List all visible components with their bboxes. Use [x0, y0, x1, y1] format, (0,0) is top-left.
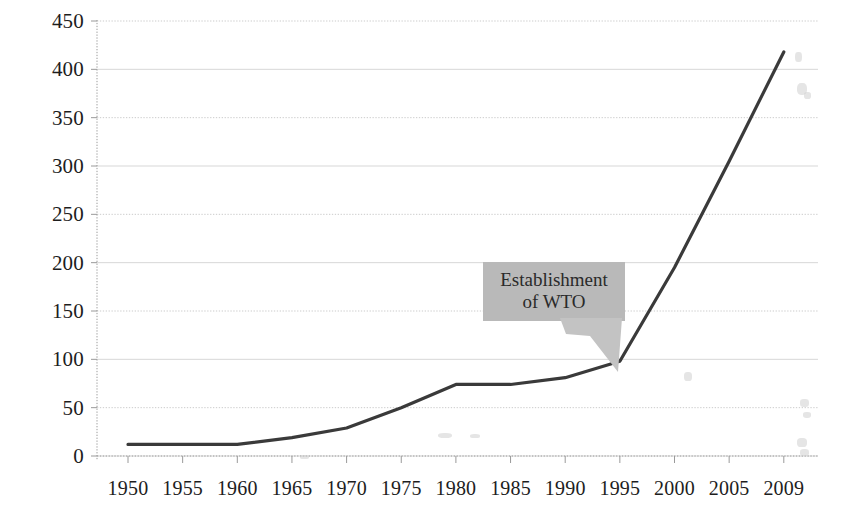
x-axis-tick-label: 1990	[545, 477, 586, 500]
x-axis-tick-label: 1965	[272, 477, 313, 500]
x-axis-tick-label: 1995	[599, 477, 640, 500]
scan-artifact	[684, 372, 692, 381]
x-axis-tick-label: 1975	[381, 477, 422, 500]
scan-artifact	[438, 433, 452, 438]
annotation-establishment-of-wto: Establishment of WTO	[483, 262, 625, 321]
scan-artifact	[800, 399, 809, 407]
x-axis-tick-label: 1985	[490, 477, 531, 500]
x-axis: 1950195519601965197019751980198519901995…	[0, 0, 861, 525]
x-axis-tick-label: 1960	[217, 477, 258, 500]
scan-artifact	[804, 92, 811, 99]
scan-artifact	[803, 412, 811, 418]
x-axis-tick-label: 2009	[763, 477, 804, 500]
annotation-pointer-tail	[560, 318, 650, 374]
annotation-line-1: Establishment	[500, 269, 608, 290]
x-axis-tick-label: 2000	[654, 477, 695, 500]
x-axis-tick-label: 1950	[108, 477, 149, 500]
line-chart: 050100150200250300350400450 195019551960…	[0, 0, 861, 525]
x-axis-tick-label: 1970	[326, 477, 367, 500]
x-axis-tick-label: 1955	[162, 477, 203, 500]
scan-artifact	[800, 449, 809, 456]
scan-artifact	[797, 438, 807, 447]
annotation-line-2: of WTO	[522, 291, 585, 312]
scan-artifact	[470, 434, 480, 438]
x-axis-tick-label: 1980	[435, 477, 476, 500]
scan-artifact	[300, 455, 309, 459]
x-axis-tick-label: 2005	[709, 477, 750, 500]
scan-artifact	[795, 52, 802, 62]
